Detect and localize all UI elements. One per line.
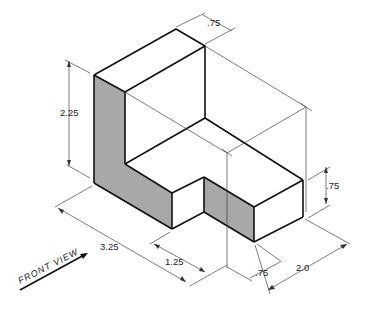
dim-notch-width: 1.25: [165, 256, 184, 267]
dim-top-thickness: .75: [207, 17, 220, 28]
front-view-label: FRONT VIEW: [16, 246, 80, 285]
dim-step-height: .75: [326, 180, 339, 191]
front-face-notch: [204, 177, 254, 242]
isometric-drawing: 2.25 .75 .75 3.25 1.25 .75 2.0 FRONT VIE…: [0, 0, 365, 309]
dim-depth: 2.0: [296, 262, 309, 273]
dim-height: 2.25: [60, 107, 79, 118]
shaded-front-faces: [94, 75, 254, 242]
object-lines: [94, 29, 303, 242]
dim-notch-depth: .75: [255, 267, 268, 278]
front-view-indicator: FRONT VIEW: [16, 246, 88, 290]
dim-overall-length: 3.25: [100, 241, 119, 252]
